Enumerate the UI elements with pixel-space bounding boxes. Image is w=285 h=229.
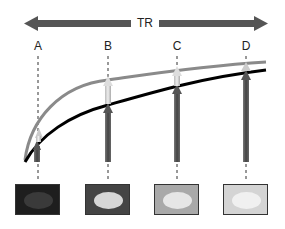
point-label-b: B — [101, 39, 115, 53]
arrow-c-icon — [172, 66, 182, 162]
arrow-b-icon — [103, 76, 113, 162]
arrow-d-icon — [241, 62, 251, 162]
signal-box-a — [15, 184, 60, 215]
point-label-c: C — [170, 39, 184, 53]
tr-label: TR — [131, 15, 159, 31]
arrow-a-icon — [33, 128, 43, 162]
signal-ellipse-d — [232, 192, 261, 209]
signal-ellipse-b — [94, 192, 123, 209]
signal-box-b — [85, 184, 130, 215]
point-label-d: D — [239, 39, 253, 53]
signal-box-d — [223, 184, 268, 215]
black-curve — [25, 70, 266, 162]
tr-relaxation-diagram: TR A B C D — [0, 0, 285, 229]
signal-box-c — [154, 184, 199, 215]
signal-ellipse-c — [163, 192, 192, 209]
point-label-a: A — [31, 39, 45, 53]
signal-ellipse-a — [24, 192, 53, 209]
